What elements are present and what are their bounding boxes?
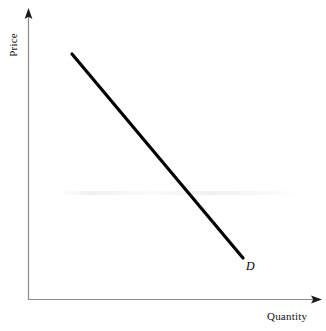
demand-curve-label: D xyxy=(246,259,255,274)
demand-curve-figure: Price Quantity D xyxy=(0,0,326,331)
demand-curve-line xyxy=(72,54,243,258)
y-axis-label: Price xyxy=(7,33,19,57)
x-axis-label: Quantity xyxy=(267,310,307,322)
chart-canvas xyxy=(0,0,326,331)
